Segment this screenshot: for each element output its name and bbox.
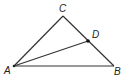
- label-c: C: [59, 3, 67, 14]
- label-d: D: [92, 29, 99, 40]
- segment-ad: [14, 41, 88, 66]
- point-d-dot: [86, 39, 90, 43]
- triangle-diagram: A B C D: [0, 0, 127, 80]
- label-a: A: [3, 65, 11, 76]
- label-b: B: [114, 66, 121, 77]
- point-a-dot: [13, 65, 16, 68]
- segment-ca: [14, 16, 63, 66]
